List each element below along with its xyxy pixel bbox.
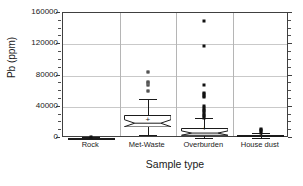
- y-tick-minor: [58, 67, 61, 68]
- y-tick-major: [56, 12, 60, 13]
- x-tick-label: Met-Waste: [129, 140, 165, 149]
- y-axis-ticks: [0, 12, 62, 137]
- x-tick-label: House dust: [241, 140, 279, 149]
- whisker-cap-lower: [195, 138, 213, 139]
- y-tick-minor: [58, 59, 61, 60]
- x-axis-tick-labels: RockMet-WasteOverburdenHouse dust: [62, 140, 288, 152]
- plot-area: ++++: [62, 12, 288, 137]
- y-tick-minor: [58, 129, 61, 130]
- x-tick-label: Overburden: [183, 140, 223, 149]
- y-tick-minor: [58, 98, 61, 99]
- y-tick-minor: [58, 20, 61, 21]
- y-tick-minor: [58, 28, 61, 29]
- y-tick-major: [56, 106, 60, 107]
- y-tick-major: [56, 43, 60, 44]
- y-tick-minor: [58, 114, 61, 115]
- boxplot-group: +: [63, 13, 289, 136]
- y-tick-minor: [58, 35, 61, 36]
- boxplot-figure: Pb (ppm) 04000080000120000160000 ++++ Ro…: [0, 0, 303, 186]
- y-tick-minor: [58, 82, 61, 83]
- y-tick-major-right: [288, 137, 292, 138]
- outlier-point: [259, 128, 262, 131]
- y-tick-minor: [58, 121, 61, 122]
- y-tick-minor: [58, 90, 61, 91]
- y-tick-major: [56, 137, 60, 138]
- x-tick-label: Rock: [82, 140, 99, 149]
- y-tick-minor: [58, 51, 61, 52]
- y-tick-major: [56, 75, 60, 76]
- outlier-point: [90, 136, 93, 139]
- x-axis-title: Sample type: [62, 158, 288, 170]
- y-axis-ticks-right: [288, 12, 298, 137]
